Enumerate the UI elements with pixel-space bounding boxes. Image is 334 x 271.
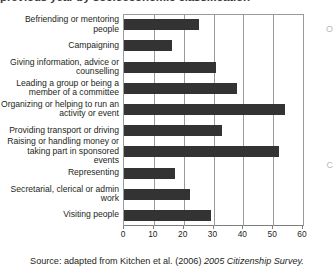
- clipped-legend-glyph: O: [326, 24, 333, 34]
- tick-label: 0: [121, 229, 126, 239]
- x-axis-ticks: 0102030405060: [123, 226, 303, 240]
- bar: [124, 210, 211, 221]
- plot-area: [123, 14, 304, 226]
- tick-label: 40: [238, 229, 247, 239]
- clipped-legend-glyph: C: [327, 160, 334, 170]
- bar: [124, 40, 172, 51]
- category-label: Leading a group or being a member of a c…: [0, 79, 119, 98]
- tick-label: 50: [267, 229, 276, 239]
- category-label: Organizing or helping to run an activity…: [0, 100, 119, 119]
- category-label: Representing: [0, 168, 119, 178]
- source-caption: Source: adapted from Kitchen et al. (200…: [0, 256, 334, 266]
- category-axis-labels: Befriending or mentoring peopleCampaigni…: [0, 14, 121, 239]
- category-label: Secretarial, clerical or admin work: [0, 185, 119, 204]
- bar: [124, 189, 190, 200]
- bar: [124, 83, 237, 94]
- category-label: Raising or handling money or taking part…: [0, 137, 119, 166]
- category-label: Visiting people: [0, 210, 119, 220]
- tick-label: 20: [178, 229, 187, 239]
- bar: [124, 19, 199, 30]
- source-italic: 2005 Citizenship Survey.: [204, 256, 304, 266]
- tick-label: 60: [297, 229, 306, 239]
- bar-chart: Befriending or mentoring peopleCampaigni…: [0, 14, 334, 239]
- bar: [124, 125, 222, 136]
- bar: [124, 62, 216, 73]
- bar: [124, 168, 175, 179]
- bar: [124, 146, 279, 157]
- chart-title-clipped: previous year by socioeconomic classific…: [0, 0, 334, 5]
- category-label: Campaigning: [0, 41, 119, 51]
- bar: [124, 104, 285, 115]
- tick-label: 10: [148, 229, 157, 239]
- gridline: [214, 14, 215, 226]
- source-prefix: Source: adapted from Kitchen et al. (200…: [30, 256, 204, 266]
- category-label: Providing transport or driving: [0, 126, 119, 136]
- category-label: Befriending or mentoring people: [0, 15, 119, 34]
- gridline: [273, 14, 274, 226]
- tick-label: 30: [208, 229, 217, 239]
- gridline: [243, 14, 244, 226]
- category-label: Giving information, advice or counsellin…: [0, 58, 119, 77]
